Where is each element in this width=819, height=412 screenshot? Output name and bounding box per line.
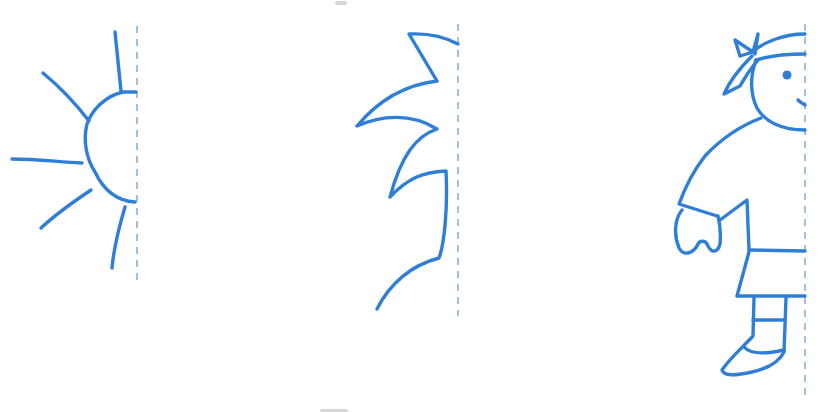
sun-ray-left xyxy=(12,159,82,163)
figure-sun xyxy=(0,0,200,290)
sun-drawing xyxy=(0,0,200,290)
eye xyxy=(783,71,792,80)
worksheet-canvas xyxy=(0,0,819,412)
shirt-inner-arm xyxy=(720,200,749,250)
sun-ray-lower-left xyxy=(41,190,91,228)
sun-ray-bottom xyxy=(112,207,125,268)
leg-and-shoe xyxy=(722,298,786,375)
shirt-hem xyxy=(749,250,805,251)
bandana-band xyxy=(756,54,805,60)
sun-half-circle xyxy=(85,92,136,202)
figure-tree xyxy=(340,20,480,320)
sun-ray-upper-left xyxy=(43,73,89,121)
smile xyxy=(798,100,805,105)
tree-drawing xyxy=(340,20,480,320)
bandana-bow xyxy=(735,34,758,56)
page-mark-top xyxy=(335,1,347,5)
child-drawing xyxy=(660,20,819,412)
shorts xyxy=(737,252,805,296)
figure-child xyxy=(660,20,819,412)
shoe-top xyxy=(744,347,784,353)
sun-ray-top xyxy=(115,32,121,91)
bandana-top xyxy=(752,34,805,52)
tree-half-outline xyxy=(357,34,458,309)
